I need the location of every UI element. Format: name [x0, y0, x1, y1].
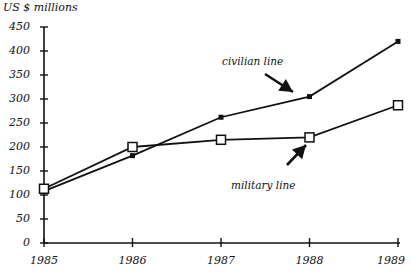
- x-tick-label: 1988: [290, 254, 330, 267]
- x-tick-label: 1985: [24, 254, 64, 267]
- y-tick-label: 400: [0, 44, 30, 57]
- y-tick-label: 300: [0, 92, 30, 105]
- y-tick-label: 0: [0, 236, 30, 249]
- y-tick-label: 250: [0, 116, 30, 129]
- filled-square-marker: [396, 39, 401, 44]
- annotation-military-line: military line: [231, 179, 296, 191]
- open-square-marker: [128, 143, 137, 152]
- line-chart: [0, 0, 411, 274]
- y-tick-label: 200: [0, 140, 30, 153]
- open-square-marker: [305, 133, 314, 142]
- y-tick-label: 350: [0, 68, 30, 81]
- filled-square-marker: [130, 153, 135, 158]
- x-tick-label: 1986: [113, 254, 153, 267]
- arrow-icon-civilian: [278, 79, 293, 92]
- annotation-civilian-line: civilian line: [222, 55, 283, 67]
- open-square-marker: [394, 101, 403, 110]
- y-tick-label: 150: [0, 164, 30, 177]
- y-tick-label: 50: [0, 212, 30, 225]
- open-square-marker: [217, 135, 226, 144]
- filled-square-marker: [307, 94, 312, 99]
- x-tick-label: 1989: [371, 254, 411, 267]
- open-square-marker: [40, 184, 49, 193]
- x-tick-label: 1987: [201, 254, 241, 267]
- filled-square-marker: [219, 115, 224, 120]
- y-tick-label: 100: [0, 188, 30, 201]
- y-tick-label: 450: [0, 20, 30, 33]
- annotation-arrows: [265, 74, 306, 165]
